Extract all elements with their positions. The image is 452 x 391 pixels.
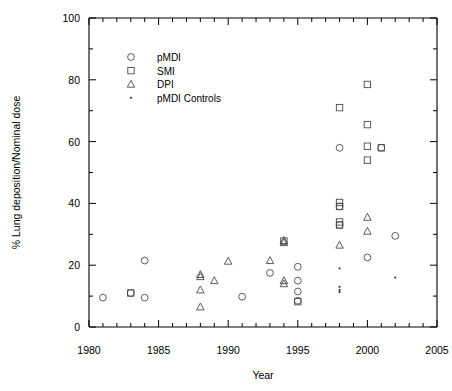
data-point [338,291,340,293]
x-tick-label: 1995 [286,344,310,356]
legend-marker-triangle [127,80,134,87]
legend-label: SMI [157,66,175,77]
data-point [364,213,371,220]
legend-marker-square [128,67,134,73]
x-tick-label: 1985 [147,344,171,356]
axes [89,18,437,327]
data-point [378,144,385,151]
series-dpi [197,213,371,310]
data-point [127,290,134,297]
data-point [197,286,204,293]
x-tick-labels: 198019851990199520002005 [77,344,449,356]
axis-ticks [89,18,437,327]
y-tick-label: 80 [68,74,80,86]
legend-label: pMDI Controls [157,93,221,104]
data-point [211,277,218,284]
data-point [336,203,343,210]
data-point [197,303,204,310]
series-pmdi [100,144,399,304]
data-points [100,81,399,310]
data-point [266,257,273,264]
y-tick-label: 100 [62,12,80,24]
series-pmdi-controls [338,267,396,293]
data-point [197,271,204,278]
data-point [141,257,148,264]
data-point [394,276,396,278]
x-tick-label: 2005 [425,344,449,356]
data-point [336,199,342,205]
legend-label: DPI [157,79,174,90]
data-point [294,288,301,295]
data-point [141,294,148,301]
data-point [100,294,107,301]
data-point [338,286,340,288]
x-tick-label: 1980 [77,344,101,356]
y-tick-label: 20 [68,259,80,271]
data-point [267,270,274,277]
x-axis-title: Year [252,369,274,381]
data-point [294,277,301,284]
data-point [364,227,371,234]
legend-label: pMDI [157,52,181,63]
data-point [294,263,301,270]
data-point [364,157,370,163]
legend-marker-circle [128,54,135,61]
legend-marker-dot [130,97,132,99]
data-point [225,257,232,264]
data-point [239,293,246,300]
scatter-plot: 198019851990199520002005 020406080100 pM… [0,0,452,391]
data-point [364,254,371,261]
data-point [336,104,342,110]
data-point [336,241,343,248]
data-point [392,232,399,239]
y-tick-labels: 020406080100 [62,12,80,333]
y-tick-label: 0 [74,321,80,333]
data-point [338,289,340,291]
x-tick-label: 1990 [217,344,241,356]
legend: pMDISMIDPIpMDI Controls [127,52,221,104]
x-tick-label: 2000 [356,344,380,356]
y-tick-label: 60 [68,136,80,148]
y-axis-title: % Lung deposition/Nominal dose [10,96,22,250]
chart-page: 198019851990199520002005 020406080100 pM… [0,0,452,391]
series-smi [128,81,385,305]
y-tick-label: 40 [68,197,80,209]
data-point [338,267,340,269]
data-point [336,144,343,151]
data-point [364,143,370,149]
data-point [364,81,370,87]
data-point [364,121,370,127]
